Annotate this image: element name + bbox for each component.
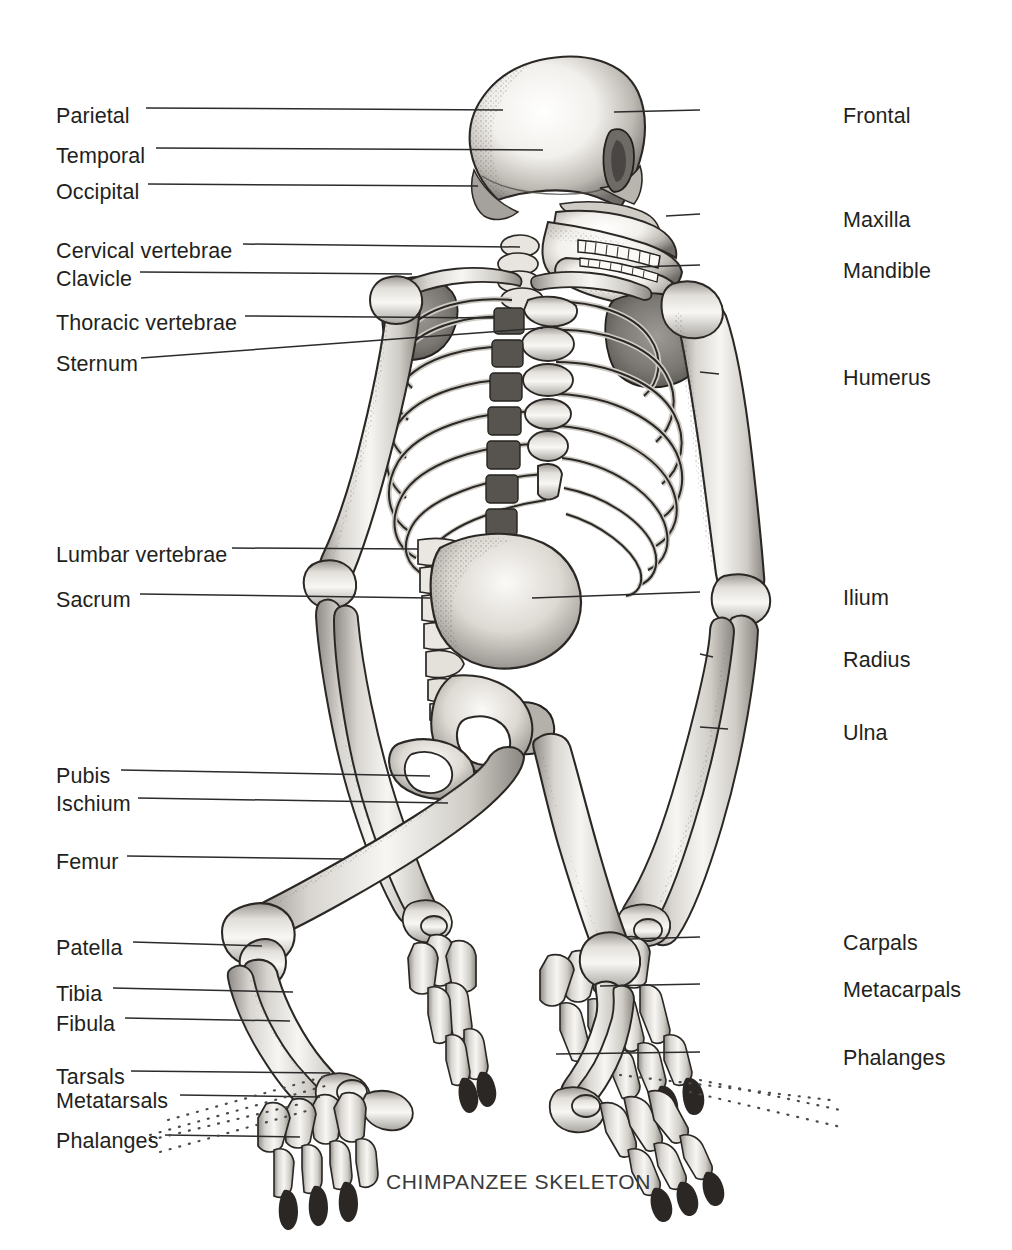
leader-hand-phalanges-fan-2 (690, 1092, 845, 1128)
label-occipital: Occipital (56, 182, 139, 204)
label-patella: Patella (56, 938, 122, 960)
figure-caption: CHIMPANZEE SKELETON (386, 1170, 651, 1194)
chimpanzee-skeleton-figure: ParietalTemporalOccipitalCervical verteb… (0, 0, 1012, 1250)
leader-hand-phalanges-fan-1 (700, 1080, 840, 1110)
label-sacrum: Sacrum (56, 590, 131, 612)
right-arm (540, 281, 770, 1123)
label-ulna: Ulna (843, 723, 888, 745)
knee-right (580, 932, 640, 988)
leader-cervical-vertebrae (243, 244, 520, 247)
label-tarsals: Tarsals (56, 1067, 125, 1089)
label-metacarpals: Metacarpals (843, 980, 961, 1002)
label-humerus: Humerus (843, 368, 931, 390)
label-cervical-vertebrae: Cervical vertebrae (56, 241, 232, 263)
sternum (522, 297, 577, 500)
label-clavicle: Clavicle (56, 269, 132, 291)
label-frontal: Frontal (843, 106, 911, 128)
leader-clavicle (140, 272, 412, 274)
tarsals-right (550, 1087, 604, 1132)
label-ischium: Ischium (56, 794, 131, 816)
fingertips-left (459, 1072, 497, 1113)
label-carpals: Carpals (843, 933, 918, 955)
label-parietal: Parietal (56, 106, 130, 128)
label-metatarsals: Metatarsals (56, 1091, 168, 1113)
femur-right (533, 734, 628, 962)
label-mandible: Mandible (843, 261, 931, 283)
leader-ischium (138, 798, 448, 803)
humerus-head-right (661, 281, 722, 338)
label-lumbar-vertebrae: Lumbar vertebrae (56, 545, 227, 567)
skeleton-body (113, 57, 845, 1230)
label-ilium: Ilium (843, 588, 889, 610)
leader-parietal (146, 108, 503, 110)
leader-maxilla (666, 214, 700, 216)
phalanges-left-foot (274, 1139, 378, 1198)
label-phalanges: Phalanges (843, 1048, 946, 1070)
phalanges-left-hand (428, 983, 488, 1086)
dotted-leader-lines (150, 1075, 845, 1152)
obturator-foramen-left (405, 752, 452, 793)
humerus-right (676, 297, 764, 601)
label-sternum: Sternum (56, 354, 138, 376)
label-maxilla: Maxilla (843, 210, 911, 232)
thoracic-vertebrae (486, 308, 524, 536)
leader-lumbar-vertebrae (232, 548, 418, 549)
label-temporal: Temporal (56, 146, 145, 168)
label-tibia: Tibia (56, 984, 102, 1006)
leader-femur (127, 856, 345, 859)
metacarpals-left (408, 935, 476, 994)
leader-occipital (148, 184, 478, 186)
label-phalanges: Phalanges (56, 1131, 159, 1153)
toe-tips-right (651, 1172, 725, 1222)
label-radius: Radius (843, 650, 911, 672)
label-femur: Femur (56, 852, 119, 874)
label-pubis: Pubis (56, 766, 110, 788)
leader-sacrum (140, 594, 430, 598)
label-fibula: Fibula (56, 1014, 115, 1036)
label-thoracic-vertebrae: Thoracic vertebrae (56, 313, 237, 335)
